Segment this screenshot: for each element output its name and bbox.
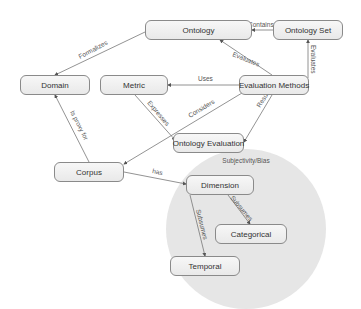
node-evaluation-methods: Evaluation Methods xyxy=(239,75,309,95)
edge-label: Uses xyxy=(198,75,214,82)
edge-label: Evaluates xyxy=(310,45,317,74)
node-temporal: Temporal xyxy=(170,256,240,276)
node-label: Domain xyxy=(41,81,69,90)
edge-label: Expresses xyxy=(145,99,171,128)
edge-label: Evaluates xyxy=(232,50,262,67)
edge-label: Subsumes xyxy=(229,194,255,223)
edge-label: has xyxy=(152,167,164,176)
node-categorical: Categorical xyxy=(215,224,287,244)
node-metric: Metric xyxy=(100,75,168,95)
edge-label: Is proxy for xyxy=(68,109,90,142)
node-dimension: Dimension xyxy=(186,175,254,195)
edge-evaluation-methods-to-corpus xyxy=(124,93,242,164)
node-label: Ontology Evaluation xyxy=(173,139,245,148)
node-ontology: Ontology xyxy=(145,20,252,40)
node-label: Dimension xyxy=(201,181,239,190)
node-label: Ontology xyxy=(182,26,214,35)
node-ontology-evaluation: Ontology Evaluation xyxy=(173,133,244,153)
edge-label: Considers xyxy=(187,97,216,118)
node-label: Categorical xyxy=(231,230,271,239)
node-ontology-set: Ontology Set xyxy=(273,20,343,40)
node-label: Corpus xyxy=(76,168,102,177)
node-label: Evaluation Methods xyxy=(239,81,309,90)
edge-ontology-to-domain xyxy=(55,32,145,75)
node-label: Ontology Set xyxy=(285,26,331,35)
node-corpus: Corpus xyxy=(54,162,124,182)
node-label: Temporal xyxy=(189,262,222,271)
node-domain: Domain xyxy=(20,75,90,95)
node-label: Metric xyxy=(123,81,145,90)
